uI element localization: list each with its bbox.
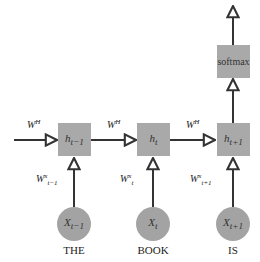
hidden-node-label: ht — [149, 132, 157, 147]
hidden-node-label: ht+1 — [224, 132, 243, 147]
recurrent-weight-label: WH — [107, 118, 120, 130]
input-weight-label: Wxt−1 — [36, 172, 58, 187]
hidden-node-t-minus-1: ht−1 — [58, 123, 91, 156]
input-word-the: THE — [49, 244, 99, 256]
input-node-t-plus-1: Xt+1 — [216, 207, 250, 241]
input-weight-label: Wxt+1 — [190, 172, 212, 187]
input-node-t: Xt — [136, 207, 170, 241]
recurrent-weight-label: WH — [186, 118, 199, 130]
input-word-book: BOOK — [128, 244, 178, 256]
recurrent-weight-label: WH — [27, 118, 40, 130]
input-node-label: Xt−1 — [64, 216, 84, 231]
input-node-label: Xt — [148, 216, 157, 231]
hidden-node-t: ht — [137, 123, 170, 156]
input-node-label: Xt+1 — [223, 216, 243, 231]
input-node-t-minus-1: Xt−1 — [57, 207, 91, 241]
softmax-node: softmax — [217, 45, 250, 78]
hidden-node-label: ht−1 — [65, 132, 84, 147]
input-word-is: IS — [208, 244, 258, 256]
input-weight-label: Wxt — [120, 172, 133, 187]
hidden-node-t-plus-1: ht+1 — [217, 123, 250, 156]
